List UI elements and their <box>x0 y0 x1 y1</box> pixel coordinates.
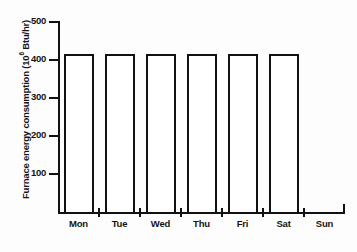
y-axis-tick <box>49 135 60 137</box>
x-axis-end-tick <box>343 204 345 214</box>
bar-tue <box>105 54 135 212</box>
y-axis-tick-label: 400 <box>16 53 46 64</box>
y-axis-tick <box>49 21 60 23</box>
y-axis-tick <box>49 173 60 175</box>
x-axis-separator <box>303 208 305 217</box>
y-axis-title: Furnace energy consumption (106 Btu/hr) <box>20 12 31 208</box>
bar-mon <box>64 54 94 212</box>
x-axis-line <box>58 212 345 214</box>
y-axis-tick-label: 100 <box>16 167 46 178</box>
plot-area: 100200300400500 MonTueWedThuFriSatSun <box>58 18 345 214</box>
x-axis-label-wed: Wed <box>140 218 181 229</box>
y-axis-line <box>58 22 60 214</box>
x-axis-separator <box>139 208 141 217</box>
x-axis-separator <box>180 208 182 217</box>
x-axis-label-sun: Sun <box>304 218 345 229</box>
x-axis-label-thu: Thu <box>181 218 222 229</box>
y-axis-tick-label: 200 <box>16 129 46 140</box>
x-axis-label-mon: Mon <box>58 218 99 229</box>
x-axis-separator <box>98 208 100 217</box>
bar-wed <box>146 54 176 212</box>
x-axis-label-fri: Fri <box>222 218 263 229</box>
x-axis-label-tue: Tue <box>99 218 140 229</box>
bar-thu <box>187 54 217 212</box>
bar-fri <box>228 54 258 212</box>
x-axis-label-sat: Sat <box>263 218 304 229</box>
furnace-energy-bar-chart: Furnace energy consumption (106 Btu/hr) … <box>0 0 357 252</box>
y-axis-tick-label: 500 <box>16 15 46 26</box>
x-axis-separator <box>262 208 264 217</box>
x-axis-separator <box>221 208 223 217</box>
y-axis-tick <box>49 59 60 61</box>
y-axis-tick-label: 300 <box>16 91 46 102</box>
bar-sat <box>269 54 299 212</box>
y-axis-tick <box>49 97 60 99</box>
